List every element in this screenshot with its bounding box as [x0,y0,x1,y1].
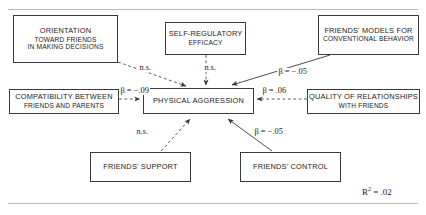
node-friends-control: Friends' control [240,152,341,182]
node-models-line1: Friends' models for [323,27,414,36]
r-squared-annotation: R2 = .02 [362,186,392,197]
node-efficacy-line1: Self-regulatory [169,30,243,39]
node-friends-models-conventional-behavior: Friends' models for conventional behavio… [318,15,419,55]
r-squared-value: = .02 [371,187,392,197]
label-quality-to-aggression: β = .06 [261,87,288,95]
node-quality-of-relationships-with-friends: Quality of relationships with friends [307,89,420,114]
path-diagram: Orientation toward friends in making dec… [0,0,426,215]
node-compatibility-friends-parents: Compatibility between friends and parent… [9,89,119,114]
node-self-regulatory-efficacy: Self-regulatory efficacy [165,22,246,55]
node-orientation-line2: toward friends [28,36,104,44]
node-friends-support: Friends' support [90,152,191,182]
node-aggression-line1: Physical aggression [153,97,244,106]
node-quality-line1: Quality of relationships [309,93,418,102]
label-control-to-aggression: β = −.05 [253,128,284,136]
node-support-line1: Friends' support [103,163,177,172]
node-physical-aggression: Physical aggression [143,88,254,114]
node-efficacy-line2: efficacy [169,39,243,47]
node-models-line2: conventional behavior [323,35,414,43]
node-orientation-line1: Orientation [28,27,104,36]
node-compatibility-line2: friends and parents [15,102,112,110]
label-compatibility-to-aggression: β = −.09 [119,87,150,95]
label-orientation-to-aggression: n.s. [138,64,153,72]
node-orientation-toward-friends: Orientation toward friends in making dec… [13,15,118,63]
node-quality-line2: with friends [309,102,418,110]
node-orientation-line3: in making decisions [28,43,104,51]
edge-support-to-aggression [161,119,190,151]
node-control-line1: Friends' control [253,163,328,172]
label-support-to-aggression: n.s. [135,128,150,136]
node-compatibility-line1: Compatibility between [15,93,112,102]
label-models-to-aggression: β = −.05 [277,68,308,76]
label-efficacy-to-aggression: n.s. [203,64,218,72]
